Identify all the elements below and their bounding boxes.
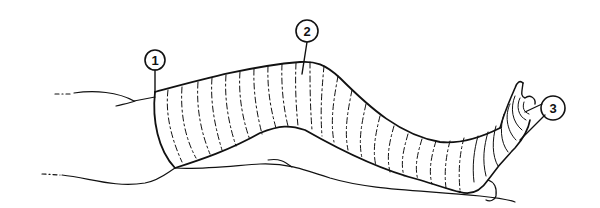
callout-1: 1: [145, 50, 165, 92]
callout-2-label: 2: [303, 24, 310, 39]
callout-3-label: 3: [549, 101, 556, 116]
thigh-outline: [42, 92, 515, 202]
callout-1-label: 1: [151, 53, 158, 68]
callout-2: 2: [296, 20, 318, 74]
leg-bandage-illustration: 1 2 3: [0, 0, 600, 208]
bandage-foot: [460, 82, 535, 201]
bandage-upper: [154, 62, 500, 192]
illustration-canvas: 1 2 3: [0, 0, 600, 208]
callout-3: 3: [520, 96, 565, 140]
